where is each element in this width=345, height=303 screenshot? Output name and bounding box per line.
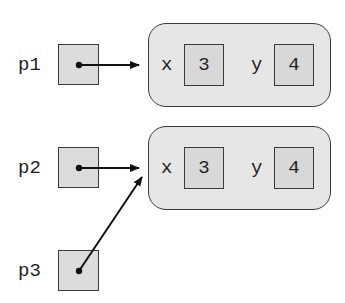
arrow-p3-to-object2	[76, 177, 142, 274]
arrow-icon	[79, 177, 142, 271]
arrow-p1-to-object1	[76, 62, 139, 68]
reference-arrows	[0, 0, 345, 303]
reference-diagram: p1 p2 p3 x 3 y 4 x 3 y 4	[0, 0, 345, 303]
arrow-p2-to-object2	[76, 165, 139, 171]
